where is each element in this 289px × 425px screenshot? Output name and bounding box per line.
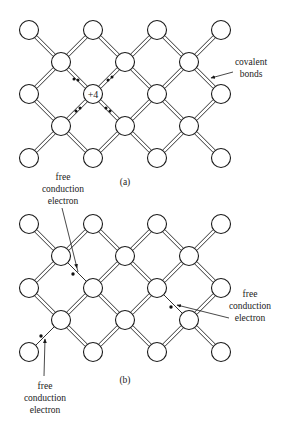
atom-core [84, 279, 103, 298]
free-electron-dot [39, 334, 42, 337]
atom-core [212, 279, 231, 298]
covalent-bond [69, 102, 88, 121]
covalent-bond [67, 294, 86, 313]
covalent-bond [163, 232, 182, 251]
covalent-bond [67, 70, 86, 89]
covalent-bond [165, 134, 184, 153]
atom-core [148, 343, 167, 362]
atom-core [212, 21, 231, 40]
fe1-line1: free [56, 172, 71, 182]
covalent-bond [99, 296, 118, 315]
atom-core [20, 279, 39, 298]
covalent-bond [197, 132, 216, 151]
covalent-bond [131, 70, 150, 89]
covalent-bond [197, 326, 216, 345]
covalent-bond [163, 102, 182, 121]
covalent-bond [133, 68, 152, 87]
atom-core [20, 149, 39, 168]
broken-bond [68, 263, 87, 282]
fe2-line3: electron [235, 313, 266, 323]
covalent-bond [133, 232, 152, 251]
covalent-bond [101, 36, 120, 55]
covalent-bond [195, 134, 214, 153]
covalent-bond [99, 68, 118, 87]
atom-core [52, 247, 71, 266]
fe1-line2: conduction [42, 184, 84, 194]
covalent-bond [163, 38, 182, 57]
covalent-bond [165, 328, 184, 347]
covalent-bond [37, 134, 56, 153]
covalent-bond [67, 100, 86, 119]
covalent-bond [99, 102, 118, 121]
covalent-bond [197, 102, 216, 121]
covalent-bond [37, 70, 56, 89]
fe1-arrow-tail [77, 268, 78, 272]
atom-core [148, 149, 167, 168]
covalent-bond [163, 132, 182, 151]
atom-core [180, 311, 199, 330]
covalent-bond [195, 100, 214, 119]
covalent-bond [101, 70, 120, 89]
atom-core [212, 85, 231, 104]
covalent-bond [133, 262, 152, 281]
covalent-bond [67, 134, 86, 153]
covalent-bond [133, 326, 152, 345]
covalent-bond [131, 134, 150, 153]
atom-core [20, 21, 39, 40]
covalent-bond [165, 264, 184, 283]
atom-core [180, 53, 199, 72]
covalent-bond [35, 68, 54, 87]
covalent-label-line2: bonds [240, 69, 263, 79]
covalent-bond [131, 264, 150, 283]
covalent-bond [101, 294, 120, 313]
atom-core [84, 149, 103, 168]
covalent-bond [163, 262, 182, 281]
atom-core [84, 21, 103, 40]
covalent-bond [37, 264, 56, 283]
atom-core [212, 149, 231, 168]
panel-b-caption: (b) [119, 375, 130, 386]
atom-core [148, 215, 167, 234]
covalent-bond [197, 296, 216, 315]
covalent-bond [69, 326, 88, 345]
covalent-bond [101, 264, 120, 283]
atom-core [212, 343, 231, 362]
covalent-bond [131, 328, 150, 347]
covalent-bond [69, 296, 88, 315]
covalent-bond [197, 38, 216, 57]
covalent-bond [99, 38, 118, 57]
covalent-bond [195, 328, 214, 347]
panel-b-lattice [20, 215, 231, 362]
free-electron-dot [71, 272, 74, 275]
free-electron-dot [169, 305, 172, 308]
atom-core [52, 117, 71, 136]
atom-core [148, 85, 167, 104]
fe3-line3: electron [30, 405, 61, 415]
atom-core [52, 311, 71, 330]
covalent-bond [35, 102, 54, 121]
covalent-bond [101, 230, 120, 249]
covalent-bond [99, 262, 118, 281]
covalent-bond [69, 68, 88, 87]
covalent-bond [165, 100, 184, 119]
covalent-bond [195, 294, 214, 313]
atom-core [20, 215, 39, 234]
covalent-bond [133, 296, 152, 315]
covalent-bond [197, 262, 216, 281]
covalent-bond [133, 132, 152, 151]
covalent-bond [69, 38, 88, 57]
fe2-line2: conduction [229, 301, 271, 311]
covalent-label-line1: covalent [235, 57, 268, 67]
covalent-bond [195, 230, 214, 249]
covalent-bond [37, 100, 56, 119]
fe2-line1: free [243, 289, 258, 299]
covalent-bonds-annotation: covalent bonds [211, 57, 267, 79]
covalent-bond [195, 264, 214, 283]
atom-core [148, 21, 167, 40]
covalent-bond [35, 262, 54, 281]
atom-core [116, 311, 135, 330]
atom-core [20, 343, 39, 362]
covalent-bond [131, 100, 150, 119]
atom-core [148, 279, 167, 298]
atom-core [116, 53, 135, 72]
